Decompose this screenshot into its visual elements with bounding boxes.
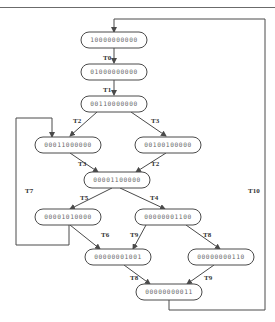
state-node-n9: 00000000110 (188, 249, 254, 265)
edge-label-t4: T4 (150, 194, 159, 202)
edge-t4 (120, 188, 165, 209)
edge-label-t3: T3 (151, 117, 160, 125)
edge-label-t10: T10 (248, 187, 260, 195)
state-node-n8: 00000001001 (85, 249, 151, 265)
edge-label-t3: T3 (78, 160, 87, 168)
state-node-n0: 10000000000 (81, 32, 147, 48)
edge-label-t9: T9 (204, 274, 213, 282)
diagram-canvas: 1000000000001000000000001100000000001100… (0, 0, 275, 322)
edge-label-t2: T2 (73, 117, 82, 125)
state-graph: 1000000000001000000000001100000000001100… (0, 0, 275, 322)
edge-label-t6: T6 (101, 231, 110, 239)
state-node-n10: 00000000011 (136, 284, 202, 300)
nodes: 1000000000001000000000001100000000001100… (35, 32, 254, 300)
edge-label-t8: T8 (203, 231, 212, 239)
node-label: 00100100000 (144, 141, 192, 148)
edge-label-t2: T2 (151, 160, 160, 168)
node-label: 00110000000 (90, 100, 138, 107)
node-label: 00000001100 (144, 213, 192, 220)
node-label: 00001100000 (93, 176, 141, 183)
edge-label-t8: T8 (130, 274, 139, 282)
node-label: 01000000000 (90, 68, 138, 75)
state-node-n4: 00100100000 (135, 137, 201, 153)
edge-label-t9: T9 (130, 231, 139, 239)
state-node-n5: 00001100000 (84, 172, 150, 188)
node-label: 00000000011 (145, 288, 193, 295)
edge-label-t1: T1 (103, 86, 112, 94)
state-node-n7: 00000001100 (135, 209, 201, 225)
edge-t5 (70, 188, 112, 209)
node-label: 00011000000 (44, 141, 92, 148)
state-node-n2: 00110000000 (81, 96, 147, 112)
edge-t3-a (131, 112, 166, 136)
state-node-n6: 00001010000 (35, 209, 101, 225)
node-label: 10000000000 (90, 36, 138, 43)
state-node-n3: 00011000000 (35, 137, 101, 153)
edge-t10-loop (114, 19, 265, 310)
node-label: 00000001001 (94, 253, 142, 260)
node-label: 00001010000 (44, 213, 92, 220)
state-node-n1: 01000000000 (81, 64, 147, 80)
edge-label-t0: T0 (103, 54, 112, 62)
edge-label-t5: T5 (80, 194, 89, 202)
node-label: 00000000110 (197, 253, 245, 260)
edge-label-t7: T7 (25, 187, 34, 195)
edge-t6 (70, 225, 100, 249)
edges (16, 19, 265, 310)
